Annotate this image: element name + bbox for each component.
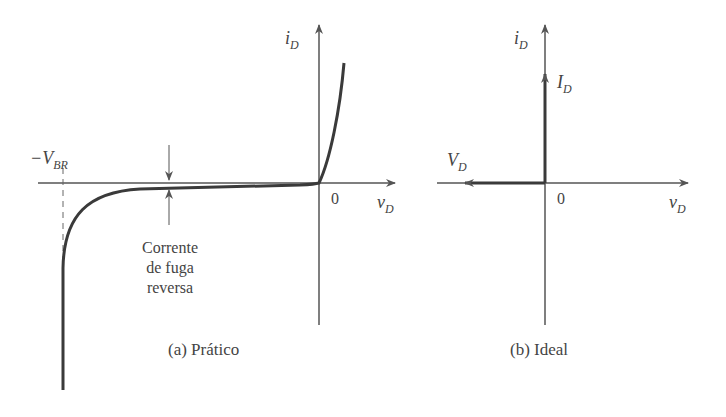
- caption-b: (b) Ideal: [510, 340, 568, 360]
- panel-a-practical: [38, 25, 395, 390]
- leakage-current-annotation: Corrente de fuga reversa: [118, 238, 222, 298]
- caption-a: (a) Prático: [168, 340, 239, 360]
- y-axis-label-b: iD: [514, 28, 528, 53]
- origin-label-a: 0: [331, 190, 339, 208]
- diode-iv-diagram: [0, 0, 726, 417]
- breakdown-voltage-label: −VBR: [30, 148, 68, 173]
- origin-label-b: 0: [557, 190, 565, 208]
- x-axis-label-b: vD: [669, 192, 686, 217]
- x-axis-label-a: vD: [377, 192, 394, 217]
- reverse-voltage-label: VD: [447, 150, 467, 175]
- y-axis-label-a: iD: [285, 28, 299, 53]
- panel-b-ideal: [437, 25, 688, 325]
- forward-current-label: ID: [557, 72, 572, 97]
